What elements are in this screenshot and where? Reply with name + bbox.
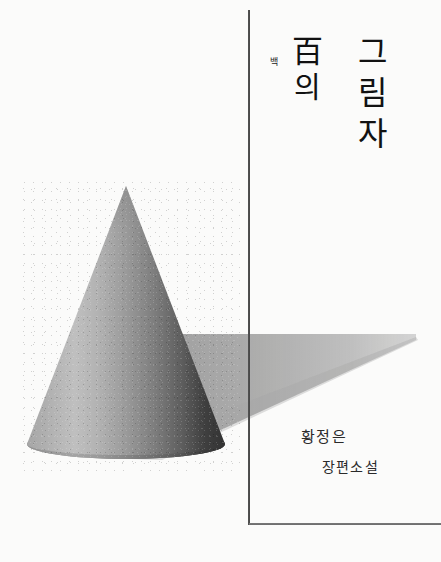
title-hanja-baek: 百 <box>284 36 330 68</box>
horizontal-rule <box>249 523 441 525</box>
cone-illustration <box>20 182 240 472</box>
title-column-hangul: 그 림 자 <box>346 32 398 155</box>
title-block: 백 百 의 그 림 자 <box>270 36 430 156</box>
title-column-hanja: 백 百 의 <box>284 36 330 106</box>
title-particle-ui: 의 <box>284 70 330 106</box>
title-syllable-rim: 림 <box>346 73 398 114</box>
title-syllable-geu: 그 <box>346 32 398 73</box>
title-syllable-ja: 자 <box>346 114 398 155</box>
ruby-annotation-baek: 백 <box>270 58 278 67</box>
book-cover: 백 百 의 그 림 자 황정은 장편소설 <box>0 0 441 562</box>
subtitle-genre: 장편소설 <box>322 456 379 476</box>
author-name: 황정은 <box>301 425 347 446</box>
vertical-rule <box>248 10 250 525</box>
